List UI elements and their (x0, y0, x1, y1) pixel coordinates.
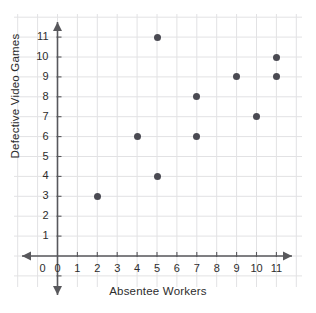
data-point (94, 193, 101, 200)
x-tick-label-4: 4 (128, 263, 146, 274)
x-tick-label-1: 1 (68, 263, 86, 274)
x-axis-title: Absentee Workers (0, 285, 316, 297)
y-axis-title: Defective Video Games (9, 11, 21, 181)
x-tick-label-10: 10 (248, 263, 266, 274)
x-tick-label-5: 5 (148, 263, 166, 274)
data-point (273, 54, 280, 61)
y-tick-label-7: 7 (31, 111, 49, 122)
data-point (154, 34, 161, 41)
y-tick-label-2: 2 (31, 210, 49, 221)
x-tick-label-3: 3 (108, 263, 126, 274)
y-tick-label-8: 8 (31, 91, 49, 102)
x-tick-label-6: 6 (168, 263, 186, 274)
y-tick-label-9: 9 (31, 71, 49, 82)
x-tick-label-2: 2 (88, 263, 106, 274)
y-tick-label-1: 1 (31, 230, 49, 241)
origin-tick-label-0: 0 (34, 263, 52, 274)
x-tick-label-11: 11 (267, 263, 285, 274)
y-tick-label-6: 6 (31, 131, 49, 142)
x-tick-label-9: 9 (228, 263, 246, 274)
data-point (154, 173, 161, 180)
y-tick-label-5: 5 (31, 151, 49, 162)
x-tick-label-7: 7 (188, 263, 206, 274)
y-tick-label-10: 10 (31, 51, 49, 62)
y-tick-label-4: 4 (31, 170, 49, 181)
y-tick-label-11: 11 (31, 31, 49, 42)
scatter-plot-figure: 01234567891011 12345678910110 Absentee W… (0, 0, 316, 313)
x-tick-label-8: 8 (208, 263, 226, 274)
data-point (134, 133, 141, 140)
y-axis-title-wrapper: Defective Video Games (9, 11, 29, 181)
y-tick-label-3: 3 (31, 190, 49, 201)
